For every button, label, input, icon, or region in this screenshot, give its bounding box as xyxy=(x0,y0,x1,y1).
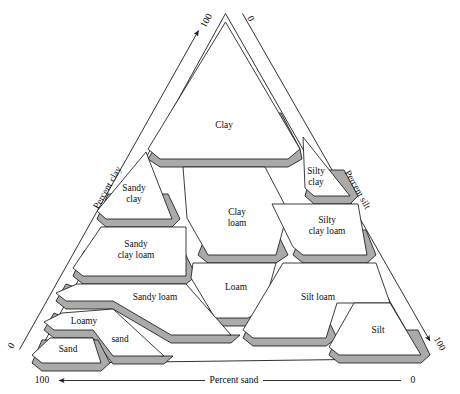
region-silty-clay-loam-label-2: clay loam xyxy=(309,226,346,236)
axis-bottom-tick-0: 0 xyxy=(411,374,416,385)
region-silt-label: Silt xyxy=(371,325,384,335)
region-sandy-clay-label-2: clay xyxy=(126,194,142,204)
axis-right-tick-0: 0 xyxy=(245,14,257,24)
region-clay[interactable]: Clay xyxy=(148,22,302,167)
region-clay-loam-label-1: Clay xyxy=(228,207,246,217)
region-loamy-sand-label-2: sand xyxy=(111,334,128,344)
axis-left-tick-0: 0 xyxy=(5,340,17,350)
axis-bottom-title: Percent sand xyxy=(210,374,259,385)
region-sandy-clay-loam-label-1: Sandy xyxy=(124,239,148,249)
region-silty-clay-label-2: clay xyxy=(308,177,324,187)
region-clay-loam-label-2: loam xyxy=(228,218,247,228)
soil-texture-triangle-figure: Clay Silty clay Sandy clay Clay loam S xyxy=(0,0,460,394)
axis-bottom-sand: Percent sand 100 0 xyxy=(35,374,416,385)
region-sandy-clay-loam[interactable]: Sandy clay loam xyxy=(73,227,196,284)
region-sandy-clay-loam-label-2: clay loam xyxy=(118,250,155,260)
region-silt[interactable]: Silt xyxy=(329,303,430,363)
region-sandy-clay-label-1: Sandy xyxy=(122,183,146,193)
region-loam-label: Loam xyxy=(225,282,248,292)
region-loamy-sand-label-1: Loamy xyxy=(71,316,98,326)
axis-left-tick-100: 100 xyxy=(198,11,215,29)
region-clay-label: Clay xyxy=(215,120,233,130)
region-clay-loam[interactable]: Clay loam xyxy=(183,167,288,263)
triangle-canvas: Clay Silty clay Sandy clay Clay loam S xyxy=(0,0,460,394)
region-sand[interactable]: Sand xyxy=(32,338,110,371)
region-clay-face xyxy=(148,22,300,159)
region-silty-clay-loam-label-1: Silty xyxy=(318,215,336,225)
axis-bottom-tick-100: 100 xyxy=(35,374,50,385)
region-silt-loam-label: Silt loam xyxy=(301,292,336,302)
region-sand-label: Sand xyxy=(59,344,78,354)
axis-right-tick-100: 100 xyxy=(432,334,449,352)
region-silty-clay-label-1: Silty xyxy=(307,166,325,176)
region-sandy-loam-label: Sandy loam xyxy=(133,292,178,302)
